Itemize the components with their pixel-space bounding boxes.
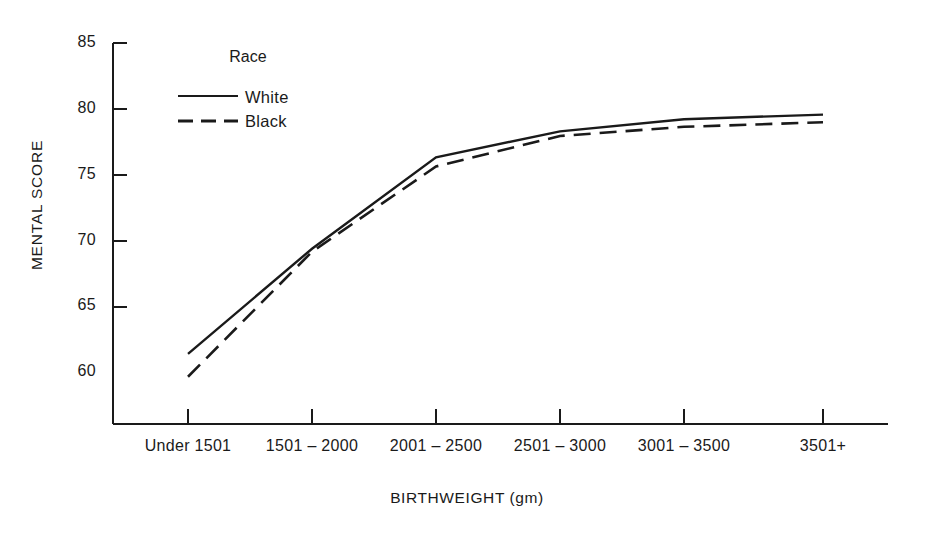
plot-area: [0, 0, 934, 546]
y-tick-marks: [113, 43, 127, 307]
x-tick-label-3501-plus: 3501+: [743, 437, 903, 455]
x-tick-marks: [188, 409, 823, 424]
chart-figure: MENTAL SCORE 85 80 75 70 65 60: [0, 0, 934, 546]
x-tick-label-3001-3500: 3001 – 3500: [604, 437, 764, 455]
legend-title: Race: [188, 48, 308, 66]
series-line-black: [188, 122, 823, 377]
legend-label-black: Black: [245, 112, 287, 131]
legend-label-white: White: [245, 88, 289, 107]
x-axis-title: BIRTHWEIGHT (gm): [0, 489, 934, 507]
